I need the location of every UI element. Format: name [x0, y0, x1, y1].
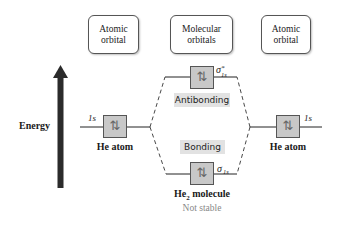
- molecule-status: Not stable: [167, 203, 237, 213]
- header-left-line2: orbital: [89, 35, 138, 46]
- left-atom-label: He atom: [90, 141, 140, 152]
- right-electron-pair-icon: ⇅: [276, 117, 300, 135]
- left-orbital-label: 1s: [88, 113, 96, 123]
- sigma-bonding-subscript: 1s: [223, 168, 229, 175]
- header-atomic-orbital-left: Atomic orbital: [88, 15, 139, 54]
- header-middle-line1: Molecular: [171, 24, 232, 35]
- left-electron-pair-icon: ⇅: [103, 117, 127, 135]
- header-right-line2: orbital: [262, 35, 310, 46]
- antibonding-electron-pair-icon: ⇅: [190, 68, 214, 86]
- right-atom-label: He atom: [263, 141, 313, 152]
- header-right-line1: Atomic: [262, 24, 310, 35]
- energy-arrow-icon: [53, 65, 68, 188]
- sigma-star-subscript: 1s: [221, 69, 227, 81]
- antibonding-orbital-symbol: σ*1s: [216, 64, 230, 76]
- bonding-orbital-symbol: σ1s: [217, 163, 229, 178]
- right-orbital-label: 1s: [304, 113, 312, 123]
- header-middle-line2: orbitals: [171, 35, 232, 46]
- molecule-label: He2 molecule: [167, 188, 237, 202]
- antibonding-tag: Antibonding: [174, 93, 230, 107]
- energy-axis-label: Energy: [19, 120, 50, 131]
- bonding-tag: Bonding: [180, 140, 225, 154]
- dashed-connectors: [150, 77, 250, 174]
- sigma-bonding-symbol: σ: [217, 163, 222, 174]
- header-left-line1: Atomic: [89, 24, 138, 35]
- bonding-electron-pair-icon: ⇅: [190, 164, 214, 182]
- header-atomic-orbital-right: Atomic orbital: [261, 15, 311, 54]
- header-molecular-orbitals: Molecular orbitals: [170, 15, 233, 54]
